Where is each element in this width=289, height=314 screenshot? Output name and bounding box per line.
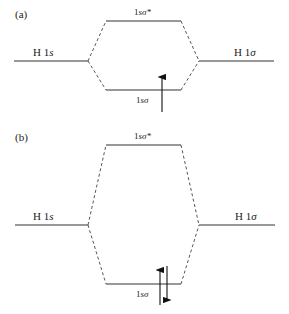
bonding-label: 1sσ <box>136 95 149 105</box>
panel-label-b: (b) <box>15 131 28 144</box>
correlation-line <box>181 61 199 90</box>
correlation-line <box>88 145 106 225</box>
correlation-line <box>88 61 106 90</box>
correlation-line <box>88 225 106 284</box>
panel-label-a: (a) <box>15 8 28 21</box>
h1sigma-label-right: H 1σ <box>234 46 256 58</box>
correlation-line <box>181 21 199 61</box>
panel-a: (a) H 1s 1sσ* 1sσ H 1σ <box>14 7 274 112</box>
bonding-label: 1sσ <box>136 289 149 299</box>
antibonding-label: 1sσ* <box>134 7 151 17</box>
h1s-label-left: H 1s <box>33 46 53 58</box>
correlation-line <box>181 145 199 225</box>
h1s-label-left: H 1s <box>33 210 53 222</box>
panel-b: (b) H 1s 1sσ* 1sσ H 1σ <box>15 131 275 305</box>
correlation-line <box>88 21 106 61</box>
mo-diagram: (a) H 1s 1sσ* 1sσ H 1σ (b) H 1s 1sσ* 1sσ… <box>0 0 289 314</box>
antibonding-label: 1sσ* <box>134 131 151 141</box>
correlation-line <box>181 225 199 284</box>
h1sigma-label-right: H 1σ <box>235 210 257 222</box>
